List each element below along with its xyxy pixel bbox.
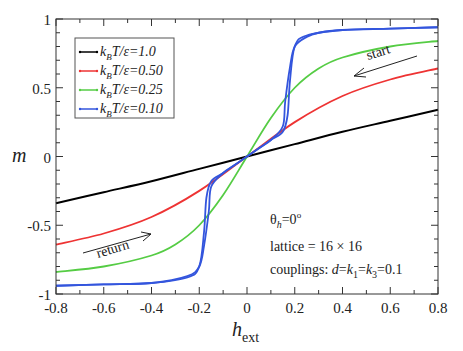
legend: kBT/ε=1.0kBT/ε=0.50kBT/ε=0.25kBT/ε=0.10 <box>75 38 174 119</box>
svg-text:couplings: d=k1=k3=0.1: couplings: d=k1=k3=0.1 <box>270 262 403 280</box>
y-axis-label: m <box>12 144 26 166</box>
x-axis-label: hext <box>232 318 259 345</box>
svg-text:lattice = 16 × 16: lattice = 16 × 16 <box>270 239 362 254</box>
y-tick-label: 1 <box>44 12 52 28</box>
x-tick-label: 0.8 <box>429 300 448 316</box>
x-tick-label: -0.6 <box>92 300 116 316</box>
x-tick-label: 0.2 <box>285 300 304 316</box>
svg-text:return: return <box>94 237 130 261</box>
info-annotation: θh=0o lattice = 16 × 16 couplings: d=k1=… <box>270 210 403 280</box>
x-tick-label: -0.8 <box>44 300 68 316</box>
x-tick-label: 0.6 <box>381 300 400 316</box>
svg-text:θh=0o: θh=0o <box>270 210 302 230</box>
x-tick-labels: -0.8-0.6-0.4-0.200.20.40.60.8 <box>44 300 447 316</box>
hysteresis-chart: -1-0.500.51 -0.8-0.6-0.4-0.200.20.40.60.… <box>0 0 463 351</box>
y-tick-label: -0.5 <box>27 218 51 234</box>
y-tick-label: 0.5 <box>32 81 51 97</box>
x-tick-label: -0.2 <box>187 300 211 316</box>
x-tick-label: -0.4 <box>140 300 164 316</box>
y-tick-labels: -1-0.500.51 <box>27 12 51 303</box>
x-tick-label: 0 <box>243 300 251 316</box>
svg-text:start: start <box>364 41 392 62</box>
y-tick-label: 0 <box>44 150 52 166</box>
x-tick-label: 0.4 <box>333 300 352 316</box>
start-annotation: start <box>354 41 417 77</box>
